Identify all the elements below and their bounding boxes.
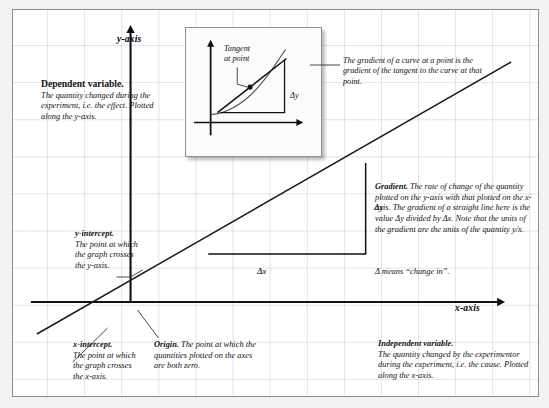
note-origin-heading: Origin.: [154, 340, 179, 349]
note-delta-means-body: Δ means “change in”.: [375, 267, 450, 276]
note-curve-gradient-body: The gradient of a curve at a point is th…: [343, 56, 482, 86]
note-dependent-variable: Dependent variable. The quantity changed…: [41, 78, 159, 123]
note-x-intercept: x-intercept. The point at which the grap…: [73, 340, 139, 383]
diagram-board: y-axis x-axis Δy Δx Tangent: [12, 9, 539, 397]
note-dependent-heading: Dependent variable.: [41, 78, 124, 89]
note-x-intercept-body: The point at which the graph crosses the…: [73, 351, 136, 381]
note-y-intercept: y-intercept. The point at which the grap…: [75, 229, 141, 272]
note-independent-heading: Independent variable.: [378, 339, 453, 348]
note-gradient-heading: Gradient.: [375, 182, 408, 191]
note-y-intercept-body: The point at which the graph crosses the…: [75, 240, 138, 270]
note-curve-gradient: The gradient of a curve at a point is th…: [343, 56, 495, 87]
note-origin: Origin. The point at which the quantitie…: [154, 340, 258, 372]
note-y-intercept-heading: y-intercept.: [75, 229, 114, 238]
note-independent-body: The quantity changed by the experimentor…: [378, 350, 528, 380]
diagram-page: y-axis x-axis Δy Δx Tangent: [0, 0, 549, 408]
note-independent-variable: Independent variable. The quantity chang…: [378, 339, 539, 382]
note-dependent-body: The quantity changed during the experime…: [41, 91, 154, 121]
note-gradient: Gradient. The rate of change of the quan…: [375, 182, 535, 235]
note-delta-means: Δ means “change in”.: [375, 267, 535, 278]
note-x-intercept-heading: x-intercept.: [73, 340, 112, 349]
